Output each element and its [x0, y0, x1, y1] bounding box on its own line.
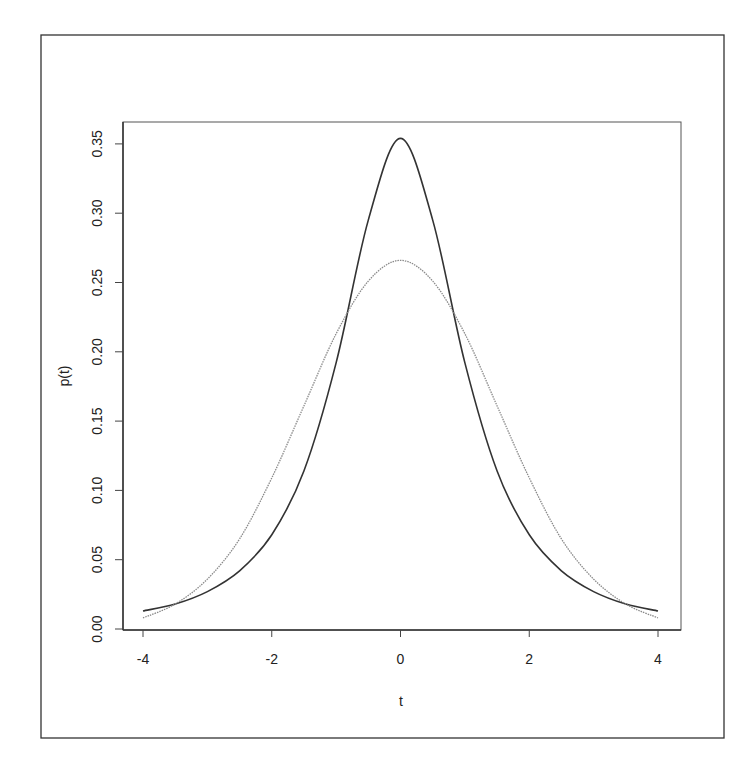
y-tick-label: 0.00: [89, 615, 105, 642]
series-line-peaked: [143, 138, 658, 611]
x-tick-label: -4: [137, 651, 150, 667]
plot-area: [123, 122, 681, 630]
series-line-normal: [143, 260, 658, 618]
x-axis-ticks: -4-2024: [137, 630, 662, 667]
x-tick-label: 0: [397, 651, 405, 667]
y-tick-label: 0.10: [89, 477, 105, 504]
y-tick-label: 0.05: [89, 546, 105, 573]
y-axis-ticks: 0.000.050.100.150.200.250.300.35: [89, 130, 123, 643]
y-axis-label: p(t): [56, 366, 72, 387]
x-axis-label: t: [399, 693, 403, 709]
y-tick-label: 0.35: [89, 130, 105, 157]
y-tick-label: 0.20: [89, 338, 105, 365]
x-tick-label: 2: [525, 651, 533, 667]
x-tick-label: 4: [654, 651, 662, 667]
x-tick-label: -2: [266, 651, 279, 667]
y-tick-label: 0.15: [89, 407, 105, 434]
y-tick-label: 0.25: [89, 269, 105, 296]
chart-figure: -4-2024 0.000.050.100.150.200.250.300.35…: [0, 0, 754, 772]
y-tick-label: 0.30: [89, 199, 105, 226]
